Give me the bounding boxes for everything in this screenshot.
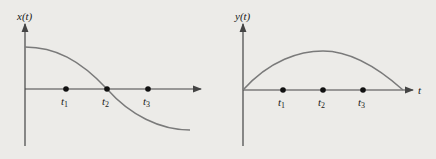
- figure: x(t) t1 t2 t3 y(t) t t1 t2 t3: [0, 0, 436, 159]
- right-curve-sine: [243, 51, 403, 90]
- right-dot-t1: [280, 87, 286, 93]
- right-dot-t3: [360, 87, 366, 93]
- left-dot-t2: [104, 86, 110, 92]
- left-dot-t3: [145, 86, 151, 92]
- left-dot-t1: [63, 86, 69, 92]
- right-y-label: y(t): [234, 10, 251, 23]
- left-tick-t2: t2: [102, 95, 109, 109]
- right-dot-t2: [320, 87, 326, 93]
- right-x-label: t: [418, 84, 422, 96]
- left-plot: x(t) t1 t2 t3: [16, 10, 201, 146]
- left-y-label: x(t): [16, 10, 33, 23]
- right-tick-t1: t1: [278, 96, 285, 110]
- right-tick-t3: t3: [358, 96, 365, 110]
- right-plot: y(t) t t1 t2 t3: [234, 10, 422, 146]
- left-tick-t3: t3: [143, 95, 150, 109]
- right-tick-t2: t2: [318, 96, 325, 110]
- left-tick-t1: t1: [61, 95, 68, 109]
